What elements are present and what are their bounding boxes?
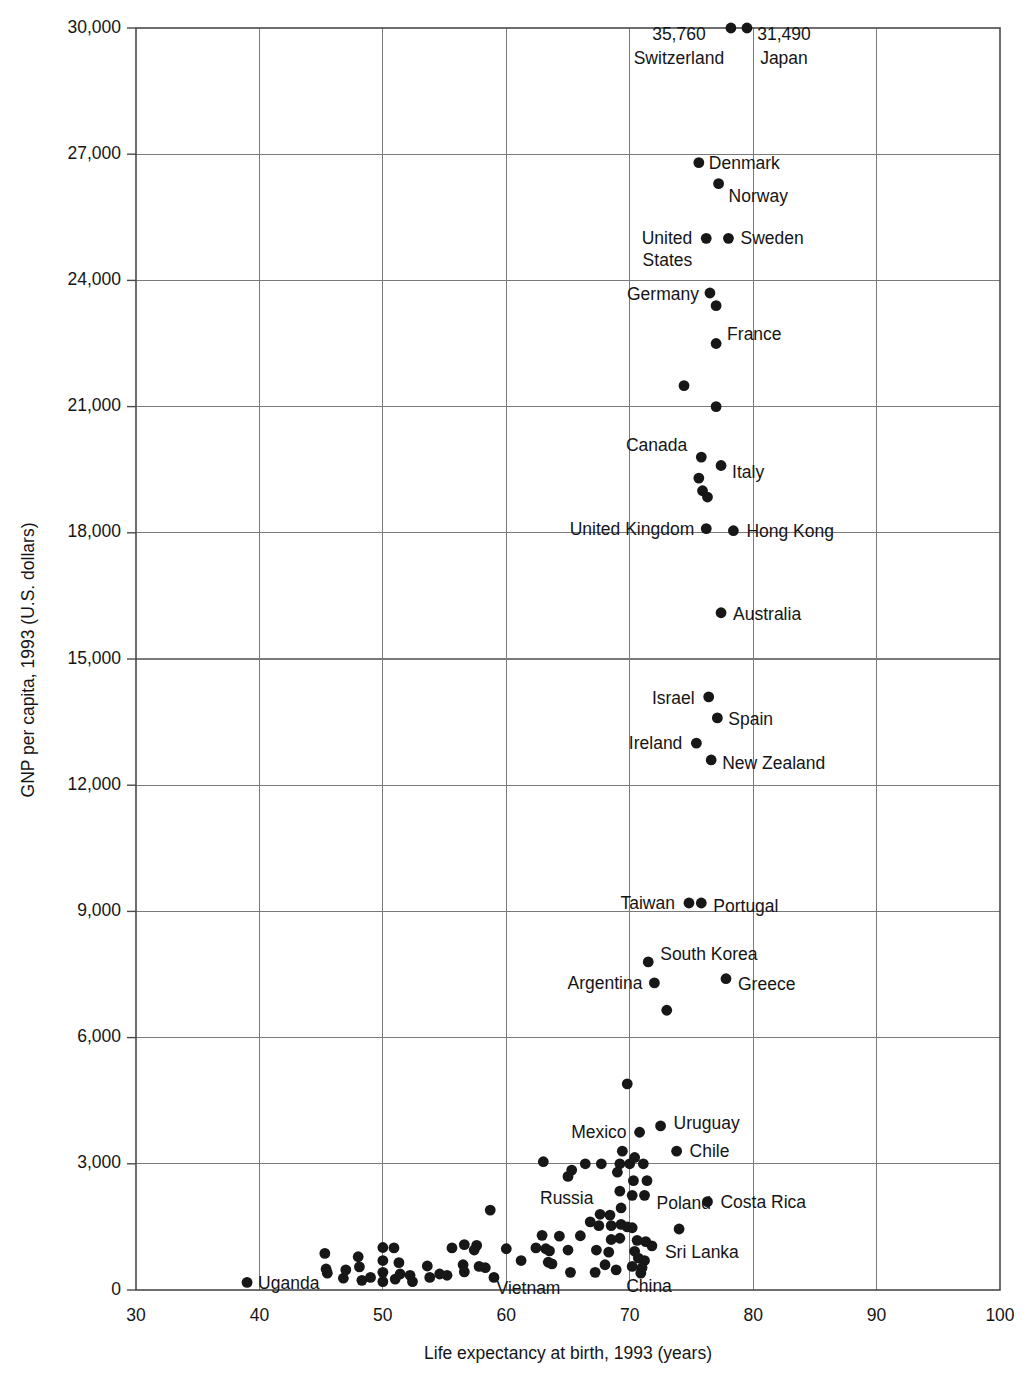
- data-point-canada: [696, 452, 707, 463]
- data-point: [389, 1243, 400, 1254]
- data-point-label-poland: Poland: [657, 1193, 712, 1213]
- y-tick-label: 0: [111, 1279, 121, 1299]
- data-point: [590, 1267, 601, 1278]
- data-point-italy: [716, 460, 727, 471]
- x-tick-label: 90: [867, 1305, 887, 1325]
- x-tick-label: 60: [497, 1305, 517, 1325]
- data-point-portugal: [696, 898, 707, 909]
- data-point: [711, 300, 722, 311]
- data-point: [322, 1268, 333, 1279]
- data-point: [394, 1257, 405, 1268]
- data-point: [485, 1205, 496, 1216]
- data-point-label-united-states: United: [642, 228, 693, 248]
- y-axis-ticks: [127, 28, 136, 1290]
- data-point-label-costa-rica: Costa Rica: [720, 1192, 806, 1212]
- data-point: [459, 1267, 470, 1278]
- x-axis-title: Life expectancy at birth, 1993 (years): [424, 1343, 712, 1363]
- data-point-vietnam: [565, 1267, 576, 1278]
- data-point-poland: [639, 1190, 650, 1201]
- y-tick-label: 18,000: [67, 521, 121, 541]
- data-point-label-portugal: Portugal: [713, 896, 778, 916]
- data-point-argentina: [649, 978, 660, 989]
- x-tick-label: 100: [985, 1305, 1014, 1325]
- data-point: [614, 1186, 625, 1197]
- data-point: [591, 1245, 602, 1256]
- data-point: [442, 1270, 453, 1281]
- data-point-new-zealand: [706, 755, 717, 766]
- y-tick-label: 24,000: [67, 269, 121, 289]
- data-point-label-hong-kong: Hong Kong: [746, 521, 834, 541]
- data-point-label-norway: Norway: [729, 186, 789, 206]
- data-point-israel: [703, 691, 714, 702]
- y-axis-tick-labels: 03,0006,0009,00012,00015,00018,00021,000…: [67, 17, 121, 1299]
- data-point: [629, 1152, 640, 1163]
- data-point-label-germany: Germany: [627, 284, 699, 304]
- y-tick-label: 12,000: [67, 774, 121, 794]
- data-point: [501, 1243, 512, 1254]
- data-point-label-new-zealand: New Zealand: [722, 753, 825, 773]
- data-point-label-switzerland: Switzerland: [634, 48, 724, 68]
- data-point-uganda: [242, 1277, 253, 1288]
- data-point-mexico: [634, 1127, 645, 1138]
- data-point: [354, 1261, 365, 1272]
- data-point-label-sri-lanka: Sri Lanka: [665, 1242, 739, 1262]
- data-point: [480, 1262, 491, 1273]
- data-point: [338, 1273, 349, 1284]
- data-point: [661, 1005, 672, 1016]
- data-point: [622, 1078, 633, 1089]
- data-point: [628, 1175, 639, 1186]
- data-point-australia: [716, 607, 727, 618]
- data-point: [679, 380, 690, 391]
- data-point-china: [611, 1264, 622, 1275]
- data-point: [563, 1245, 574, 1256]
- data-point-hong-kong: [728, 525, 739, 536]
- data-point-label-united-kingdom: United Kingdom: [570, 519, 695, 539]
- data-point-label-argentina: Argentina: [567, 973, 642, 993]
- data-point-label-chile: Chile: [690, 1141, 730, 1161]
- data-point-sweden: [723, 233, 734, 244]
- data-point: [459, 1239, 470, 1250]
- data-point: [580, 1158, 591, 1169]
- data-point: [447, 1243, 458, 1254]
- y-tick-label: 30,000: [67, 17, 121, 37]
- data-point-denmark: [693, 157, 704, 168]
- data-point: [390, 1274, 401, 1285]
- data-point-label-spain: Spain: [728, 709, 773, 729]
- y-tick-label: 9,000: [77, 900, 121, 920]
- y-tick-label: 27,000: [67, 143, 121, 163]
- data-point-label-russia: Russia: [540, 1188, 594, 1208]
- data-point: [365, 1272, 376, 1283]
- data-point: [377, 1255, 388, 1266]
- data-point: [674, 1224, 685, 1235]
- data-point: [377, 1276, 388, 1287]
- data-point-label-canada: Canada: [626, 435, 688, 455]
- data-point: [627, 1190, 638, 1201]
- data-point-label-mexico: Mexico: [571, 1122, 626, 1142]
- x-tick-label: 80: [743, 1305, 763, 1325]
- data-point-norway: [713, 178, 724, 189]
- data-point-switzerland: [726, 23, 737, 34]
- data-point-label-italy: Italy: [732, 462, 764, 482]
- x-axis-tick-labels: 30405060708090100: [126, 1305, 1015, 1325]
- data-point: [554, 1231, 565, 1242]
- data-point: [537, 1230, 548, 1241]
- data-point-label-china: China: [626, 1276, 672, 1296]
- data-point: [544, 1245, 555, 1256]
- data-point-label-greece: Greece: [738, 974, 795, 994]
- y-tick-label: 15,000: [67, 648, 121, 668]
- data-point: [600, 1259, 611, 1270]
- data-point: [353, 1251, 364, 1262]
- data-point: [638, 1158, 649, 1169]
- data-point: [702, 492, 713, 503]
- data-point: [614, 1233, 625, 1244]
- data-point: [516, 1255, 527, 1266]
- data-point: [319, 1248, 330, 1259]
- data-point-japan: [742, 23, 753, 34]
- data-point-label-denmark: Denmark: [709, 153, 780, 173]
- data-point-label-south-korea: South Korea: [660, 944, 758, 964]
- x-tick-label: 50: [373, 1305, 393, 1325]
- data-point-label-france: France: [727, 324, 781, 344]
- data-point: [469, 1245, 480, 1256]
- data-point: [595, 1209, 606, 1220]
- data-point-label-australia: Australia: [733, 604, 801, 624]
